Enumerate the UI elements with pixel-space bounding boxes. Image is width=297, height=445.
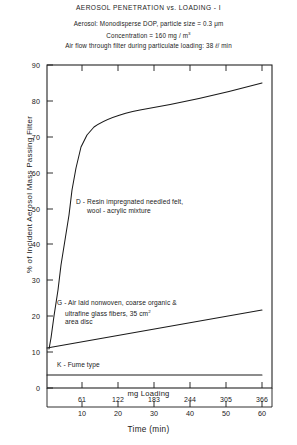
curve-label-d: D - Resin impregnated needled felt, wool… <box>76 198 183 215</box>
x-tick-label-time-60: 60 <box>242 409 282 418</box>
x-tick-label-load-244: 244 <box>170 396 210 403</box>
x-tick-label-time-40: 40 <box>170 409 210 418</box>
curve-label-k-line1: K - Fume type <box>57 361 100 370</box>
x-tick-label-time-10: 10 <box>62 409 102 418</box>
x-tick-label-time-30: 30 <box>134 409 174 418</box>
curve-label-g-line3: area disc <box>57 318 177 327</box>
curve-label-g-line1: G - Air laid nonwoven, coarse organic & <box>57 299 177 308</box>
y-axis-ticks <box>47 65 53 388</box>
x-tick-label-load-183: 183 <box>134 396 174 403</box>
y-tick-label-90: 90 <box>14 61 40 70</box>
plot-frame <box>47 65 272 388</box>
curve-label-g-line2-text: ultrafine glass fibers, 35 cm <box>65 310 148 317</box>
x-axis-ticks-top <box>82 65 262 71</box>
plot-canvas <box>0 0 297 445</box>
curve-label-d-line1: D - Resin impregnated needled felt, <box>76 198 183 207</box>
curve-label-g-line2: ultrafine glass fibers, 35 cm2 <box>57 308 177 319</box>
x-tick-label-load-61: 61 <box>62 396 102 403</box>
curve-label-d-line2: wool - acrylic mixture <box>76 207 183 216</box>
x-tick-label-load-122: 122 <box>98 396 138 403</box>
x-tick-label-time-20: 20 <box>98 409 138 418</box>
x-axis-title: Time (min) <box>0 425 297 434</box>
x-tick-label-load-305: 305 <box>206 396 246 403</box>
figure-aerosol-penetration: AEROSOL PENETRATION vs. LOADING - I Aero… <box>0 0 297 445</box>
y-tick-label-80: 80 <box>14 97 40 106</box>
x-axis-ticks-bottom <box>82 382 262 388</box>
y-axis-title: % of Incident Aerosol Mass Passing Filte… <box>25 110 34 280</box>
y-tick-label-10: 10 <box>14 348 40 357</box>
curve-label-k: K - Fume type <box>57 361 100 370</box>
x-tick-label-time-50: 50 <box>206 409 246 418</box>
square-exponent: 2 <box>148 309 151 314</box>
x-tick-label-load-366: 366 <box>242 396 282 403</box>
y-tick-label-20: 20 <box>14 312 40 321</box>
curve-label-g: G - Air laid nonwoven, coarse organic & … <box>57 299 177 327</box>
